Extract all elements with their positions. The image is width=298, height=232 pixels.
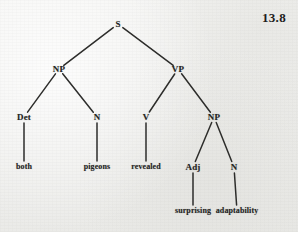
figure-number-label: 13.8 <box>262 11 286 24</box>
tree-node-word-surprising: surprising <box>175 207 211 215</box>
tree-node-np-object: NP <box>208 113 220 122</box>
figure-page: SNPVPDetNVNPAdjNbothpigeonsrevealedsurpr… <box>0 0 298 232</box>
tree-node-v: V <box>143 113 150 122</box>
tree-node-s: S <box>115 20 120 29</box>
tree-node-np-subject: NP <box>53 65 65 74</box>
tree-node-n-subject: N <box>94 113 101 122</box>
tree-node-adj: Adj <box>185 163 200 172</box>
tree-branch-s-to-vp <box>123 28 173 66</box>
tree-branch-np-subject-to-n-subject <box>63 74 94 113</box>
tree-branch-vp-to-np-object <box>182 74 211 112</box>
tree-node-word-revealed: revealed <box>131 163 161 171</box>
tree-branch-vp-to-v <box>149 74 174 112</box>
tree-branch-n-object-to-word-adaptability <box>234 173 236 205</box>
tree-branch-np-subject-to-det <box>28 74 56 112</box>
tree-node-word-adaptability: adaptability <box>216 207 259 215</box>
tree-node-n-object: N <box>231 163 238 172</box>
tree-node-det: Det <box>17 113 31 122</box>
tree-branch-np-object-to-adj <box>195 123 211 162</box>
tree-node-word-pigeons: pigeons <box>84 163 111 171</box>
tree-node-vp: VP <box>172 65 184 74</box>
tree-node-word-both: both <box>16 163 32 171</box>
tree-branch-np-object-to-n-object <box>216 123 232 162</box>
tree-branch-s-to-np-subject <box>64 28 113 66</box>
